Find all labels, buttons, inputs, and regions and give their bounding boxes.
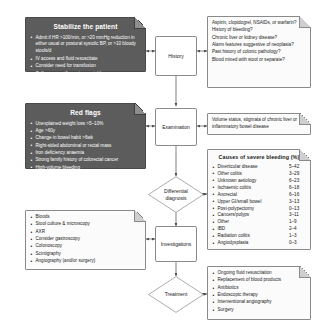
list-item: Colonoscopy (30, 243, 141, 250)
cause-value: 3–11 (289, 212, 306, 219)
list-item: Alarm features suggestive of neoplasia? (212, 42, 306, 49)
stabilize-the-patient-title: Stabilize the patient (30, 22, 141, 32)
flowchart-canvas: History Examination Differential diagnos… (0, 0, 322, 335)
flow-node-treatment-label: Treatment (156, 291, 196, 297)
stabilize-the-patient-box: Stabilize the patient Admit if HR >100/m… (25, 17, 146, 72)
flow-node-differential-diagnosis-label: Differential diagnosis (156, 188, 196, 201)
cause-label: Unknown aetiology (218, 178, 257, 185)
cause-label: Cancers/polyps (218, 212, 250, 219)
table-row: Cancers/polyps 3–11 (212, 212, 306, 219)
cause-label: Angiodysplasia (218, 240, 249, 247)
list-item: History of bleeding? (212, 27, 306, 34)
table-row: Anorectal 6–16 (212, 192, 306, 199)
list-item: Aspirin, clopidogrel, NSAIDs, or warfari… (212, 20, 306, 27)
list-item: Volume status, stigmata of chronic liver… (212, 117, 306, 131)
causes-of-severe-bleeding-box: Causes of severe bleeding (%) Diverticul… (207, 149, 311, 250)
cause-value: 1–9 (289, 219, 306, 226)
table-row: Ischaemic colitis 6–18 (212, 185, 306, 192)
table-row: Other colitis 3–29 (212, 171, 306, 178)
list-item: Past history of colonic pathology? (212, 49, 306, 56)
list-item: Unexplained weight loss >5–10% (30, 121, 141, 128)
causes-of-severe-bleeding-list: Diverticular disease 5–42 Other colitis … (212, 164, 306, 248)
cause-label: Radiation colitis (218, 233, 250, 240)
examination-notes-box: Volume status, stigmata of chronic liver… (207, 113, 311, 135)
flow-node-history[interactable]: History (155, 36, 197, 76)
list-item: Endoscopic therapy (212, 292, 306, 299)
flow-node-examination-label: Examination (162, 124, 190, 130)
list-item: Strong family history of colorectal canc… (30, 157, 141, 164)
cause-value: 6–18 (289, 185, 306, 192)
list-item: Consider need for transfusion (30, 63, 141, 70)
table-row: Radiation colitis 1–3 (212, 233, 306, 240)
red-flags-list: Unexplained weight loss >5–10% Age >60y … (30, 121, 141, 179)
list-item: Surgery (212, 307, 306, 314)
list-item: Admit if HR >100/min, or >20 mmHg reduct… (30, 35, 141, 56)
treatment-notes-box: Ongoing fluid resuscitation Replacement … (207, 266, 311, 320)
list-item: Consider gastroscopy (30, 236, 141, 243)
list-item: Replacement of blood products (212, 277, 306, 284)
list-item: Right-sided abdominal or rectal mass (30, 143, 141, 150)
table-row: Other 1–9 (212, 219, 306, 226)
list-item: Stool culture & microscopy (30, 221, 141, 228)
cause-value: 1–3 (289, 233, 306, 240)
investigations-notes-list: Bloods Stool culture & microscopy AXR Co… (30, 214, 141, 265)
cause-value: 0–3 (289, 240, 306, 247)
table-row: IBD 2–4 (212, 226, 306, 233)
cause-label: Anorectal (218, 192, 237, 199)
table-row: Unknown aetiology 6–23 (212, 178, 306, 185)
stabilize-the-patient-list: Admit if HR >100/min, or >20 mmHg reduct… (30, 35, 141, 78)
list-item: Blood mixed with stool or separate? (212, 57, 306, 64)
cause-label: IBD (218, 226, 226, 233)
list-item: AXR (30, 229, 141, 236)
cause-label: Upper GI/small bowel (218, 199, 262, 206)
list-item: IV access and fluid resuscitate (30, 56, 141, 63)
cause-value: 3–13 (289, 199, 306, 206)
list-item: Change in bowel habit >6wk (30, 135, 141, 142)
flow-node-treatment[interactable]: Treatment (148, 276, 204, 313)
list-item: High-volume bleeding (30, 165, 141, 172)
cause-label: Ischaemic colitis (218, 185, 251, 192)
cause-value: 3–29 (289, 171, 306, 178)
list-item: Ongoing fluid resuscitation (212, 270, 306, 277)
cause-label: Diverticular disease (218, 164, 258, 171)
table-row: Diverticular disease 5–42 (212, 164, 306, 171)
list-item: Antibiotics (212, 285, 306, 292)
list-item: Age >60y (30, 128, 141, 135)
examination-notes-list: Volume status, stigmata of chronic liver… (212, 117, 306, 131)
investigations-notes-box: Bloods Stool culture & microscopy AXR Co… (25, 210, 146, 270)
list-item: Call surgeons if remains unstable (30, 71, 141, 78)
red-flags-box: Red flags Unexplained weight loss >5–10%… (25, 103, 146, 169)
cause-value: 2–4 (289, 226, 306, 233)
cause-label: Other (218, 219, 230, 226)
history-notes-list: Aspirin, clopidogrel, NSAIDs, or warfari… (212, 20, 306, 64)
list-item: Interventional angiography (212, 299, 306, 306)
cause-value: 0–13 (289, 206, 306, 213)
list-item: Passage of altered blood (30, 172, 141, 179)
flow-node-investigations[interactable]: Investigations (155, 226, 197, 262)
table-row: Upper GI/small bowel 3–13 (212, 199, 306, 206)
list-item: Bloods (30, 214, 141, 221)
list-item: Angiography (and/or surgery) (30, 258, 141, 265)
cause-value: 6–23 (289, 178, 306, 185)
flow-node-differential-diagnosis[interactable]: Differential diagnosis (148, 176, 204, 213)
history-notes-box: Aspirin, clopidogrel, NSAIDs, or warfari… (207, 16, 311, 88)
cause-label: Post-polypectomy (218, 206, 255, 213)
list-item: Scintigraphy (30, 251, 141, 258)
cause-label: Other colitis (218, 171, 242, 178)
flow-node-investigations-label: Investigations (161, 241, 192, 247)
treatment-notes-list: Ongoing fluid resuscitation Replacement … (212, 270, 306, 314)
flow-node-examination[interactable]: Examination (155, 108, 197, 146)
red-flags-title: Red flags (30, 108, 141, 118)
causes-of-severe-bleeding-title: Causes of severe bleeding (%) (212, 153, 306, 161)
flow-node-history-label: History (168, 53, 184, 59)
cause-value: 5–42 (289, 164, 306, 171)
table-row: Post-polypectomy 0–13 (212, 206, 306, 213)
list-item: Iron deficiency anaemia (30, 150, 141, 157)
cause-value: 6–16 (289, 192, 306, 199)
table-row: Angiodysplasia 0–3 (212, 240, 306, 247)
list-item: Chronic liver or kidney disease? (212, 35, 306, 42)
